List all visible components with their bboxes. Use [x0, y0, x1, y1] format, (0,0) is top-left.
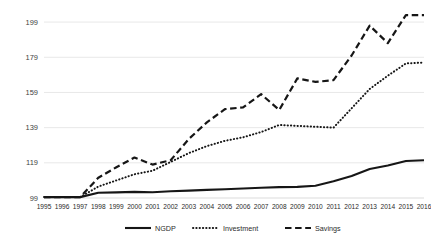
- legend-label: NGDP: [155, 224, 176, 233]
- x-axis-label: 2009: [290, 203, 305, 210]
- x-axis-label: 2001: [145, 203, 160, 210]
- line-chart: 99119139159179199 1995199619971998199920…: [0, 0, 431, 240]
- x-axis-label: 1997: [73, 203, 88, 210]
- x-axis-label: 2014: [380, 203, 395, 210]
- y-axis-label: 199: [25, 18, 38, 27]
- x-axis-label: 1999: [109, 203, 124, 210]
- data-series-group: [44, 15, 424, 197]
- y-axis-label: 179: [25, 53, 38, 62]
- series-line-ngdp: [44, 160, 424, 197]
- legend-item-investment[interactable]: Investment: [193, 224, 258, 233]
- x-axis-label: 2015: [399, 203, 414, 210]
- legend-item-savings[interactable]: Savings: [285, 224, 341, 233]
- x-axis-label: 2008: [272, 203, 287, 210]
- x-axis-label: 2016: [417, 203, 431, 210]
- legend-label: Investment: [223, 224, 258, 233]
- x-axis-tick-labels: 1995199619971998199920002001200220032004…: [37, 203, 431, 210]
- chart-legend: NGDPInvestmentSavings: [125, 224, 341, 233]
- x-axis-label: 2002: [163, 203, 178, 210]
- x-axis-label: 2010: [308, 203, 323, 210]
- y-axis-label: 99: [30, 194, 38, 203]
- x-axis-label: 1996: [55, 203, 70, 210]
- x-axis-label: 2007: [254, 203, 269, 210]
- y-axis-label: 139: [25, 123, 38, 132]
- chart-canvas: 99119139159179199 1995199619971998199920…: [0, 0, 431, 240]
- x-axis-label: 2006: [236, 203, 251, 210]
- x-axis-label: 2012: [344, 203, 359, 210]
- legend-label: Savings: [315, 224, 341, 233]
- y-axis-tick-labels: 99119139159179199: [25, 18, 38, 203]
- x-axis-label: 2003: [181, 203, 196, 210]
- legend-item-ngdp[interactable]: NGDP: [125, 224, 176, 233]
- x-axis-label: 2013: [362, 203, 377, 210]
- y-axis-label: 119: [26, 158, 38, 167]
- gridlines: [44, 22, 424, 198]
- x-axis-label: 2005: [218, 203, 233, 210]
- y-axis-label: 159: [25, 88, 38, 97]
- x-axis-label: 2000: [127, 203, 142, 210]
- x-axis-label: 2011: [326, 203, 341, 210]
- x-axis-label: 1998: [91, 203, 106, 210]
- x-axis-label: 1995: [37, 203, 52, 210]
- x-axis-label: 2004: [200, 203, 215, 210]
